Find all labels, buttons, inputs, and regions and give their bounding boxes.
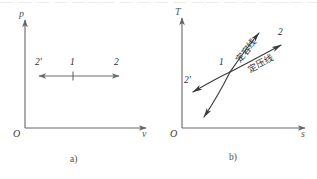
panel-b-point-1-label: 1 <box>219 58 224 68</box>
panel-a-x-axis-label: v <box>142 129 146 139</box>
panel-a-y-axis-label: p <box>19 9 24 19</box>
figure-root: ⸺ ⸺ ⸺ ⸺ ⸺⸺⸺ ⸺ ⸺ ⸺ ⸺ ⸺⸺ ⸺ ⸺ ⸺⸺⸺ ⸺ ⸺ ⸺ ⸺ ⸺… <box>0 0 317 179</box>
panel-b-svg <box>157 0 317 160</box>
panel-b-y-axis-label: T <box>175 7 181 17</box>
panel-a-caption: a) <box>70 154 77 164</box>
panel-a-pv-diagram: p v O 2′ 1 2 a) <box>0 0 160 179</box>
panel-a-svg <box>0 0 160 160</box>
panel-a-point-2prime-label: 2′ <box>35 58 42 68</box>
panel-a-origin-label: O <box>13 129 20 139</box>
panel-a-point-1-label: 1 <box>70 58 75 68</box>
panel-b-origin-label: O <box>170 129 177 139</box>
panel-b-point-2prime-label: 2′ <box>184 76 191 86</box>
panel-b-ts-diagram: T s O 1 2 2′ 定容线 定压线 b) <box>157 0 317 179</box>
panel-b-point-2-label: 2 <box>278 28 283 38</box>
panel-a-point-2-label: 2 <box>114 58 119 68</box>
panel-b-caption: b) <box>229 152 237 162</box>
panel-b-x-axis-label: s <box>301 129 305 139</box>
